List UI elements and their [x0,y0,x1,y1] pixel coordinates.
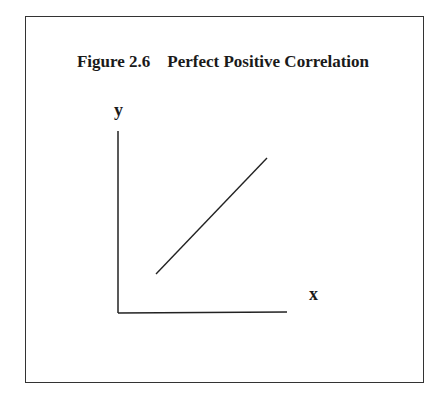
x-axis [118,312,287,313]
plot-area [0,0,446,406]
correlation-line [156,158,267,274]
